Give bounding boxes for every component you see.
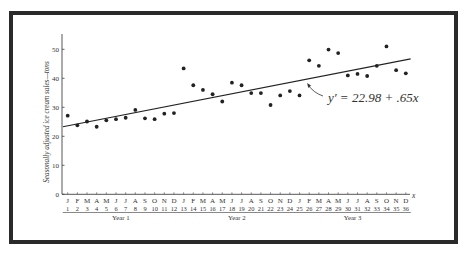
x-axis-month-labels: J1F2M3A4M5J6J7A8S9O10N11D12J13F14M15A16M…	[66, 192, 409, 211]
data-point	[327, 48, 331, 52]
x-number-label: 34	[383, 205, 390, 212]
axes	[62, 34, 410, 194]
data-point	[124, 116, 128, 120]
data-point	[230, 81, 234, 85]
x-number-label: 13	[180, 205, 186, 212]
data-point	[269, 103, 273, 107]
equation-annotation: y′ = 22.98 + .65x	[307, 83, 419, 105]
x-number-label: 14	[190, 205, 197, 212]
x-number-label: 29	[335, 205, 341, 212]
scatter-chart: 01020304050 Seasonally adjusted ice crea…	[0, 0, 466, 253]
data-point	[220, 100, 224, 104]
x-number-label: 20	[248, 205, 254, 212]
arrowhead-icon	[307, 83, 311, 88]
data-point	[385, 45, 389, 49]
year-group-labels: Year 1Year 2Year 3	[63, 213, 411, 221]
data-point	[66, 114, 70, 118]
data-point	[356, 72, 360, 76]
data-point	[307, 58, 311, 62]
x-number-label: 27	[316, 205, 323, 212]
data-point	[104, 118, 108, 122]
year-label: Year 3	[344, 214, 362, 221]
x-number-label: 33	[374, 205, 380, 212]
data-point	[375, 64, 379, 68]
x-number-label: 31	[354, 205, 360, 212]
x-number-label: 9	[143, 205, 146, 212]
year-label: Year 1	[112, 214, 130, 221]
data-point	[133, 108, 137, 112]
data-point	[394, 68, 398, 72]
data-point	[75, 123, 79, 127]
x-number-label: 30	[345, 205, 351, 212]
x-number-label: 28	[325, 205, 331, 212]
x-number-label: 24	[287, 205, 294, 212]
data-point	[191, 83, 195, 87]
data-point	[85, 120, 89, 124]
x-number-label: 6	[114, 205, 117, 212]
x-number-label: 25	[296, 205, 302, 212]
data-point	[278, 94, 282, 98]
y-axis-label: Seasonally adjusted ice cream sales—tons	[43, 61, 51, 183]
data-point	[162, 112, 166, 116]
data-point	[249, 91, 253, 95]
x-number-label: 2	[76, 205, 79, 212]
x-number-label: 8	[134, 205, 137, 212]
data-point	[153, 117, 157, 121]
x-number-label: 35	[393, 205, 399, 212]
x-number-label: 16	[209, 205, 215, 212]
data-point	[288, 89, 292, 93]
x-number-label: 11	[161, 205, 167, 212]
x-axis-label: x	[411, 191, 416, 200]
arrow-icon	[308, 85, 323, 96]
data-point	[404, 71, 408, 75]
y-tick-label: 40	[52, 75, 60, 83]
y-tick-label: 50	[52, 46, 60, 54]
data-point	[240, 83, 244, 87]
x-number-label: 3	[85, 205, 88, 212]
x-number-label: 17	[219, 205, 226, 212]
x-number-label: 7	[124, 205, 128, 212]
y-tick-label: 30	[52, 104, 60, 112]
data-point	[182, 67, 186, 71]
x-number-label: 12	[171, 205, 177, 212]
data-point	[95, 125, 99, 129]
year-label: Year 2	[228, 214, 246, 221]
y-tick-label: 0	[56, 191, 60, 199]
y-tick-label: 20	[52, 133, 60, 141]
x-number-label: 18	[229, 205, 235, 212]
data-point	[336, 51, 340, 55]
data-point	[365, 74, 369, 78]
x-number-label: 32	[364, 205, 370, 212]
data-point	[143, 116, 147, 120]
data-point	[259, 91, 263, 95]
x-number-label: 21	[258, 205, 264, 212]
data-point	[201, 88, 205, 92]
x-number-label: 26	[306, 205, 312, 212]
regression-equation: y′ = 22.98 + .65x	[326, 90, 419, 105]
data-point	[298, 94, 302, 98]
x-number-label: 5	[105, 205, 108, 212]
y-axis-ticks: 01020304050	[52, 46, 65, 199]
data-point	[172, 111, 176, 115]
x-number-label: 23	[277, 205, 283, 212]
x-number-label: 1	[66, 205, 69, 212]
x-number-label: 10	[151, 205, 157, 212]
x-number-label: 4	[95, 205, 99, 212]
x-number-label: 15	[200, 205, 206, 212]
x-number-label: 22	[267, 205, 273, 212]
x-number-label: 36	[403, 205, 409, 212]
x-number-label: 19	[238, 205, 244, 212]
y-tick-label: 10	[52, 162, 60, 170]
data-point	[317, 64, 321, 68]
data-point	[346, 74, 350, 78]
data-point	[211, 92, 215, 96]
data-point	[114, 117, 118, 121]
